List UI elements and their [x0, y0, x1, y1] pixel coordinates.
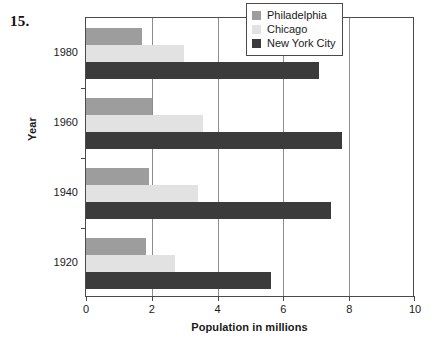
x-axis-tick-label: 6 — [280, 303, 286, 315]
chart-plot-area: 1980196019401920 0246810 — [85, 17, 414, 297]
bar — [86, 132, 342, 149]
x-axis-tick — [86, 296, 87, 301]
bar — [86, 185, 198, 202]
y-axis-tick — [81, 228, 86, 229]
legend-swatch-icon — [252, 25, 261, 34]
bar — [86, 238, 146, 255]
gridline — [349, 18, 350, 296]
bar — [86, 168, 149, 185]
y-axis-tick-label: 1920 — [54, 256, 78, 268]
x-axis-tick — [152, 296, 153, 301]
x-axis-tick — [349, 296, 350, 301]
bar — [86, 202, 331, 219]
x-axis-tick — [414, 296, 415, 301]
x-axis-tick-label: 4 — [215, 303, 221, 315]
y-axis-tick — [81, 88, 86, 89]
bar — [86, 28, 142, 45]
legend-item: Chicago — [252, 22, 335, 36]
x-axis-title: Population in millions — [85, 321, 414, 333]
y-axis-tick — [81, 158, 86, 159]
legend-item: Philadelphia — [252, 8, 335, 22]
question-number: 15. — [10, 13, 30, 30]
bar — [86, 62, 319, 79]
legend-item: New York City — [252, 36, 335, 50]
x-axis-tick-label: 2 — [149, 303, 155, 315]
bar — [86, 45, 184, 62]
legend-swatch-icon — [252, 39, 261, 48]
gridline — [283, 18, 284, 296]
legend-label: Chicago — [267, 23, 307, 35]
bar — [86, 255, 175, 272]
y-axis-tick-label: 1980 — [54, 46, 78, 58]
y-axis-tick-label: 1940 — [54, 186, 78, 198]
legend-swatch-icon — [252, 11, 261, 20]
legend-label: Philadelphia — [267, 9, 327, 21]
y-axis-tick-label: 1960 — [54, 116, 78, 128]
x-axis-tick-label: 0 — [83, 303, 89, 315]
gridline — [218, 18, 219, 296]
x-axis-tick — [283, 296, 284, 301]
bar — [86, 98, 152, 115]
legend-label: New York City — [267, 37, 335, 49]
x-axis-tick-label: 8 — [346, 303, 352, 315]
chart-legend: PhiladelphiaChicagoNew York City — [246, 3, 343, 56]
bar — [86, 115, 203, 132]
x-axis-tick-label: 10 — [409, 303, 421, 315]
x-axis-tick — [218, 296, 219, 301]
bar — [86, 272, 271, 289]
y-axis-title: Year — [26, 117, 38, 141]
